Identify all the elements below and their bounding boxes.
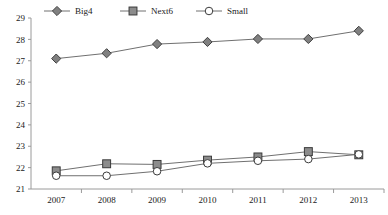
data-point-marker	[355, 151, 363, 159]
x-axis-tick-label: 2011	[249, 195, 267, 205]
y-axis-tick-label: 28	[16, 35, 26, 45]
data-point-marker	[102, 49, 111, 58]
data-point-marker	[304, 148, 312, 156]
data-point-marker	[204, 160, 212, 168]
data-point-marker	[52, 54, 61, 63]
x-axis-tick-label: 2010	[199, 195, 218, 205]
x-axis-tick-label: 2009	[148, 195, 167, 205]
data-point-marker	[205, 7, 213, 15]
data-point-marker	[203, 37, 212, 46]
chart-legend: Big4Next6Small	[44, 6, 249, 16]
data-point-marker	[152, 39, 161, 48]
data-point-marker	[354, 26, 363, 35]
legend-label-small: Small	[227, 6, 249, 16]
y-axis-tick-label: 29	[16, 13, 26, 23]
x-axis-tick-label: 2008	[98, 195, 117, 205]
series-big4	[52, 26, 364, 63]
data-point-marker	[103, 160, 111, 168]
y-axis-tick-label: 22	[16, 163, 25, 173]
data-point-marker	[304, 34, 313, 43]
data-point-marker	[305, 155, 313, 163]
y-axis-tick-label: 21	[16, 184, 25, 194]
data-point-marker	[153, 167, 161, 175]
x-axis-tick-label: 2013	[350, 195, 369, 205]
data-point-marker	[253, 34, 262, 43]
x-axis-tick-label: 2007	[47, 195, 66, 205]
x-axis-tick-label: 2012	[299, 195, 317, 205]
data-point-marker	[52, 172, 60, 180]
y-axis-tick-label: 23	[16, 141, 26, 151]
y-axis-tick-label: 26	[16, 77, 26, 87]
data-point-marker	[52, 6, 61, 15]
y-axis-tick-label: 27	[16, 56, 26, 66]
y-axis-tick-label: 24	[16, 120, 26, 130]
chart-canvas: 2122232425262728292007200820092010201120…	[0, 0, 388, 215]
data-point-marker	[129, 7, 137, 15]
line-chart: 2122232425262728292007200820092010201120…	[0, 0, 388, 215]
legend-label-big4: Big4	[75, 6, 93, 16]
y-axis-tick-label: 25	[16, 99, 26, 109]
data-point-marker	[254, 157, 262, 165]
legend-label-next6: Next6	[151, 6, 173, 16]
data-point-marker	[103, 172, 111, 180]
